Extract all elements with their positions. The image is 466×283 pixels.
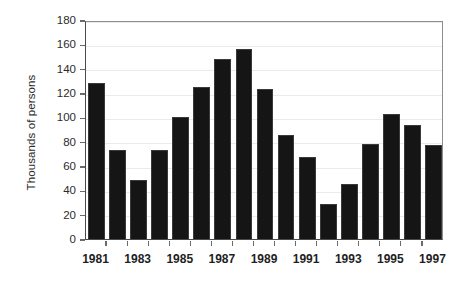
y-axis-tick-label: 80 — [44, 137, 76, 148]
x-axis-tick-label: 1993 — [328, 252, 368, 266]
y-axis-tick-label: 100 — [44, 112, 76, 123]
bar-chart-figure: Thousands of persons 0204060801001201401… — [0, 0, 466, 283]
x-axis-tick — [295, 241, 296, 246]
plot-area — [85, 21, 443, 240]
y-axis-tick-label-text: 100 — [44, 112, 76, 123]
bar-1997 — [425, 145, 442, 239]
y-axis-tick-label-text: 80 — [44, 137, 76, 148]
x-axis-tick-label-text: 1987 — [202, 252, 242, 266]
y-axis-title: Thousands of persons — [22, 20, 40, 245]
y-axis-tick-label: 40 — [44, 185, 76, 196]
x-axis-tick-label-text: 1995 — [370, 252, 410, 266]
y-axis-tick-label-text: 120 — [44, 88, 76, 99]
x-axis-tick — [127, 241, 128, 246]
bar-1982 — [109, 150, 126, 239]
x-axis-tick — [105, 241, 106, 246]
y-axis-tick-label-text: 180 — [44, 15, 76, 26]
x-axis-tick-label-text: 1997 — [412, 252, 452, 266]
x-axis-tick — [169, 241, 170, 246]
x-axis-tick — [253, 241, 254, 246]
y-axis-tick-label-text: 0 — [44, 234, 76, 245]
y-axis-tick-label-text: 40 — [44, 185, 76, 196]
y-axis-tick-label-text: 160 — [44, 39, 76, 50]
x-axis-tick-label-text: 1981 — [76, 252, 116, 266]
x-axis-tick-label: 1983 — [118, 252, 158, 266]
bar-1987 — [214, 59, 231, 239]
x-axis-tick-label: 1997 — [412, 252, 452, 266]
x-axis-tick — [232, 241, 233, 246]
x-axis-tick — [358, 241, 359, 246]
y-axis-tick-label-text: 60 — [44, 161, 76, 172]
bar-1994 — [362, 144, 379, 240]
x-axis-tick — [337, 241, 338, 246]
y-axis-tick-label: 140 — [44, 64, 76, 75]
x-axis-tick-label-text: 1993 — [328, 252, 368, 266]
bar-1986 — [193, 87, 210, 239]
x-axis-tick — [421, 241, 422, 246]
y-axis-tick-label: 0 — [44, 234, 76, 245]
x-axis-tick — [190, 241, 191, 246]
x-axis-tick — [400, 241, 401, 246]
bar-1995 — [383, 114, 400, 239]
y-axis-tick-label: 20 — [44, 210, 76, 221]
bar-1983 — [130, 180, 147, 239]
x-axis-tick-label: 1995 — [370, 252, 410, 266]
y-axis-tick-label: 60 — [44, 161, 76, 172]
bar-series-layer — [86, 22, 442, 239]
bar-1992 — [320, 204, 337, 239]
bar-1991 — [299, 157, 316, 239]
x-axis-tick-label-text: 1989 — [244, 252, 284, 266]
x-axis-tick-label: 1989 — [244, 252, 284, 266]
bar-1985 — [172, 117, 189, 239]
x-axis-tick-label: 1987 — [202, 252, 242, 266]
y-axis-tick-label: 120 — [44, 88, 76, 99]
x-axis-tick-label-text: 1983 — [118, 252, 158, 266]
y-axis-tick-label-text: 20 — [44, 210, 76, 221]
x-axis-tick-label: 1981 — [76, 252, 116, 266]
x-axis-tick — [379, 241, 380, 246]
x-axis-tick — [148, 241, 149, 246]
bar-1989 — [257, 89, 274, 239]
y-axis-tick-label: 180 — [44, 15, 76, 26]
x-axis-tick — [316, 241, 317, 246]
bar-1993 — [341, 184, 358, 239]
x-axis-tick-label: 1991 — [286, 252, 326, 266]
bar-1996 — [404, 125, 421, 239]
bar-1990 — [278, 135, 295, 239]
x-axis-tick — [211, 241, 212, 246]
x-axis-tick — [274, 241, 275, 246]
x-axis-tick-label-text: 1985 — [160, 252, 200, 266]
y-axis-tick-label: 160 — [44, 39, 76, 50]
bar-1984 — [151, 150, 168, 239]
x-axis-tick-label: 1985 — [160, 252, 200, 266]
bar-1981 — [88, 83, 105, 239]
bar-1988 — [236, 49, 253, 239]
y-axis-tick-label-text: 140 — [44, 64, 76, 75]
x-axis-tick-label-text: 1991 — [286, 252, 326, 266]
